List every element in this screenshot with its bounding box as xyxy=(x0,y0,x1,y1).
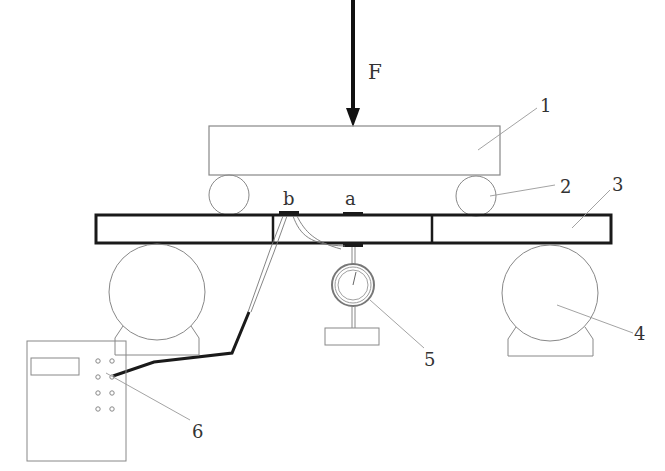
signal-cable xyxy=(113,312,249,376)
strain-gauge-a-label: a xyxy=(345,188,356,209)
gauge-wires xyxy=(248,216,345,312)
force-arrow xyxy=(346,0,360,127)
callout-6: 6 xyxy=(192,421,203,442)
strain-gauge-b xyxy=(279,211,299,216)
strain-indicator xyxy=(27,341,126,461)
loading-roller-left xyxy=(209,175,249,215)
loading-beam xyxy=(209,126,500,175)
force-label: F xyxy=(368,60,382,84)
dial-gauge-contact xyxy=(343,243,363,247)
callout-leader-6 xyxy=(106,373,190,420)
support-roller-left xyxy=(109,244,205,355)
dial-gauge xyxy=(325,247,379,345)
strain-gauge-b-label: b xyxy=(283,188,295,209)
callout-4: 4 xyxy=(634,323,645,344)
callout-3: 3 xyxy=(612,174,623,195)
callout-1: 1 xyxy=(540,95,551,116)
callout-5: 5 xyxy=(424,349,435,370)
test-beam xyxy=(96,215,611,243)
callout-leader-1 xyxy=(478,108,537,150)
callout-2: 2 xyxy=(560,176,571,197)
callout-leader-2 xyxy=(490,185,555,196)
strain-gauge-a xyxy=(343,212,363,215)
four-point-bending-diagram: F 1 2 3 b a 4 xyxy=(0,0,665,471)
support-roller-right xyxy=(502,245,598,356)
callout-leader-5 xyxy=(370,300,424,348)
callout-leader-3 xyxy=(572,190,610,228)
